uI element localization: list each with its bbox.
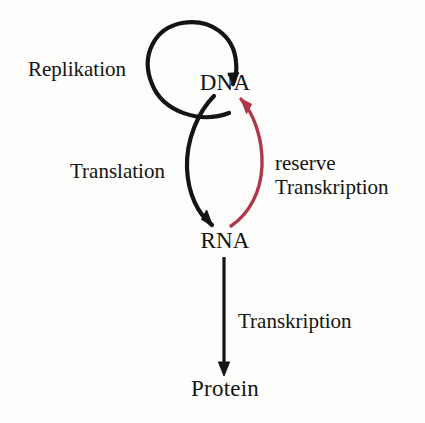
- diagram-canvas: DNA RNA Protein Replikation Translation …: [0, 0, 425, 423]
- edge-label-transcription: Transkription: [238, 310, 352, 334]
- node-label-rna: RNA: [200, 229, 249, 252]
- edge-label-translation: Translation: [70, 160, 165, 184]
- edge-label-reverse-transcription: reserve Transkription: [275, 152, 389, 199]
- reverse-transcription-arrow: [231, 99, 262, 226]
- edge-label-replication: Replikation: [28, 58, 126, 82]
- node-label-protein: Protein: [191, 377, 259, 400]
- node-label-dna: DNA: [200, 71, 250, 94]
- edge-label-reverse-transcription-line2: Transkription: [275, 176, 389, 200]
- transcription-arrow: [218, 257, 229, 376]
- edge-label-reverse-transcription-line1: reserve: [275, 152, 389, 176]
